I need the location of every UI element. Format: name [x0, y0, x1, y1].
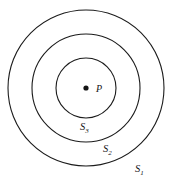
concentric-circles-figure: P S1 S2 S3	[0, 0, 174, 183]
circle-label-s2: S2	[103, 143, 112, 157]
figure-canvas: P S1 S2 S3	[0, 0, 174, 183]
point-label-p: P	[95, 83, 102, 94]
circle-label-s3: S3	[80, 121, 89, 135]
center-point-dot	[83, 85, 88, 90]
circle-label-s1: S1	[135, 163, 144, 177]
